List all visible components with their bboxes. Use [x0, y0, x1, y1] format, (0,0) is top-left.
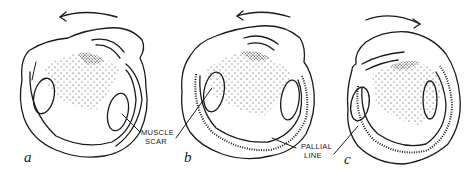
- label-pallial-line-1: PALLIAL: [301, 142, 332, 151]
- shell-panel-b: b: [176, 11, 314, 165]
- rotation-arrow-icon: [366, 16, 420, 24]
- label-muscle-scar-2: SCAR: [145, 137, 167, 146]
- rotation-arrow-icon: [237, 12, 290, 17]
- label-pallial-line-2: LINE: [304, 151, 322, 160]
- panel-letter-c: c: [344, 151, 351, 167]
- shell-figure: a MUSCLE SCAR b PALLIAL LINE: [0, 0, 471, 180]
- label-muscle-scar-1: MUSCLE: [141, 128, 174, 137]
- panel-letter-a: a: [24, 149, 32, 165]
- muscle-scar-anterior: [348, 86, 372, 123]
- rotation-arrow-icon: [60, 13, 117, 18]
- shell-panel-c: c: [334, 16, 460, 167]
- muscle-scar-posterior: [104, 91, 131, 132]
- shell-panel-a: a: [20, 12, 147, 165]
- panel-letter-b: b: [184, 149, 192, 165]
